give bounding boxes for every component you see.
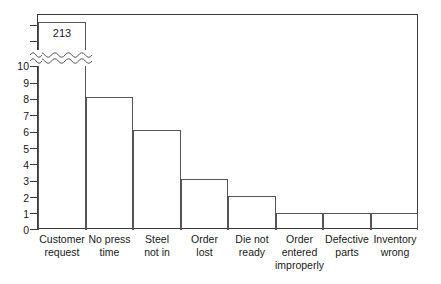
bar-die-not-ready <box>228 196 276 230</box>
y-axis-tick-mark <box>30 229 38 230</box>
y-axis-tick-label: 4 <box>7 160 29 171</box>
y-axis-tick-label: 8 <box>7 94 29 105</box>
y-axis-tick-label: 1 <box>7 209 29 220</box>
bar-steel-not-in <box>133 130 181 230</box>
x-axis-label-inventory-wrong: Inventory wrong <box>362 233 428 259</box>
y-axis-break-squiggle-icon <box>30 50 42 66</box>
y-axis: 10 9 8 7 6 5 4 3 2 1 0 <box>0 0 29 284</box>
y-axis-tick-label: 6 <box>7 127 29 138</box>
bar-value-label-customer-request: 213 <box>38 28 86 39</box>
axis-break-squiggle-icon <box>38 50 92 66</box>
y-axis-tick-label: 2 <box>7 193 29 204</box>
bar-defective-parts <box>323 213 371 230</box>
y-axis-tick-label: 3 <box>7 176 29 187</box>
pareto-bar-chart: 10 9 8 7 6 5 4 3 2 1 0 2 <box>0 0 441 284</box>
bar-no-press-time <box>86 97 133 230</box>
y-axis-tick-label: 0 <box>7 225 29 236</box>
bar-order-entered-improperly <box>276 213 323 230</box>
y-axis-tick-label: 9 <box>7 78 29 89</box>
bar-order-lost <box>181 179 228 230</box>
y-axis-tick-label: 5 <box>7 144 29 155</box>
y-axis-tick-label: 7 <box>7 111 29 122</box>
bar-inventory-wrong <box>371 213 418 230</box>
y-axis-tick-label: 10 <box>7 61 29 72</box>
